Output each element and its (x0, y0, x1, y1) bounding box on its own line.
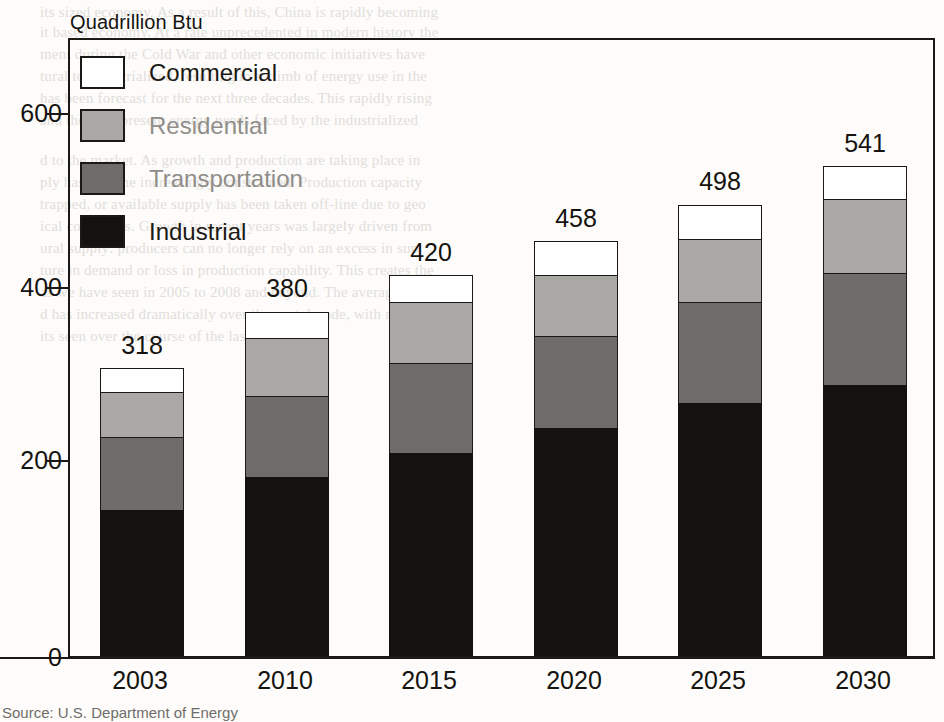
x-tick-label-2010: 2010 (220, 666, 350, 695)
legend-label-commercial: Commercial (149, 59, 277, 87)
bar-segment-transportation-2003[interactable] (100, 437, 184, 510)
legend: CommercialResidentialTransportationIndus… (80, 46, 303, 258)
bar-total-label-2020: 458 (516, 204, 636, 233)
bar-segment-commercial-2015[interactable] (389, 275, 473, 301)
bar-segment-transportation-2020[interactable] (534, 336, 618, 428)
bar-segment-industrial-2025[interactable] (678, 403, 762, 656)
bar-segment-residential-2015[interactable] (389, 302, 473, 364)
legend-swatch-residential (80, 109, 125, 142)
bar-2020[interactable] (534, 241, 618, 656)
y-axis-title: Quadrillion Btu (70, 11, 203, 34)
bar-2025[interactable] (678, 205, 762, 656)
legend-swatch-commercial (80, 56, 125, 89)
bar-segment-industrial-2003[interactable] (100, 510, 184, 656)
bar-segment-commercial-2010[interactable] (245, 312, 329, 338)
bar-segment-residential-2020[interactable] (534, 275, 618, 336)
y-tick-mark-0 (0, 657, 68, 659)
bar-total-label-2010: 380 (227, 274, 347, 303)
bar-segment-commercial-2025[interactable] (678, 205, 762, 239)
legend-swatch-industrial (80, 215, 125, 248)
legend-item-industrial[interactable]: Industrial (80, 205, 303, 258)
y-tick-mark-600 (46, 113, 68, 115)
y-tick-mark-200 (46, 460, 68, 462)
bar-total-label-2015: 420 (371, 238, 491, 267)
bar-segment-industrial-2015[interactable] (389, 453, 473, 656)
x-tick-label-2015: 2015 (364, 666, 494, 695)
bar-segment-transportation-2015[interactable] (389, 363, 473, 453)
bar-segment-industrial-2020[interactable] (534, 428, 618, 656)
x-tick-label-2030: 2030 (798, 666, 928, 695)
bar-segment-commercial-2020[interactable] (534, 241, 618, 275)
legend-label-residential: Residential (149, 112, 268, 140)
legend-label-industrial: Industrial (149, 218, 246, 246)
bar-segment-industrial-2010[interactable] (245, 477, 329, 656)
bar-2003[interactable] (100, 368, 184, 656)
bar-segment-industrial-2030[interactable] (823, 385, 907, 656)
figure-page: its sized economy. As a result of this, … (0, 0, 944, 722)
legend-item-commercial[interactable]: Commercial (80, 46, 303, 99)
bar-2030[interactable] (823, 166, 907, 656)
bar-2015[interactable] (389, 275, 473, 656)
legend-item-residential[interactable]: Residential (80, 99, 303, 152)
bar-segment-residential-2010[interactable] (245, 338, 329, 396)
bar-segment-transportation-2030[interactable] (823, 273, 907, 385)
bar-segment-commercial-2003[interactable] (100, 368, 184, 392)
x-tick-label-2025: 2025 (653, 666, 783, 695)
y-tick-mark-400 (46, 287, 68, 289)
legend-label-transportation: Transportation (149, 165, 303, 193)
source-note: Source: U.S. Department of Energy (2, 704, 238, 721)
bar-segment-commercial-2030[interactable] (823, 166, 907, 200)
legend-swatch-transportation (80, 162, 125, 195)
bar-2010[interactable] (245, 312, 329, 657)
bar-total-label-2030: 541 (805, 129, 925, 158)
x-tick-label-2003: 2003 (75, 666, 205, 695)
legend-item-transportation[interactable]: Transportation (80, 152, 303, 205)
bar-segment-transportation-2010[interactable] (245, 396, 329, 478)
bar-segment-transportation-2025[interactable] (678, 302, 762, 404)
bar-segment-residential-2003[interactable] (100, 392, 184, 436)
bar-segment-residential-2030[interactable] (823, 199, 907, 273)
x-tick-label-2020: 2020 (509, 666, 639, 695)
bar-total-label-2025: 498 (660, 167, 780, 196)
bar-segment-residential-2025[interactable] (678, 239, 762, 302)
bar-total-label-2003: 318 (82, 331, 202, 360)
